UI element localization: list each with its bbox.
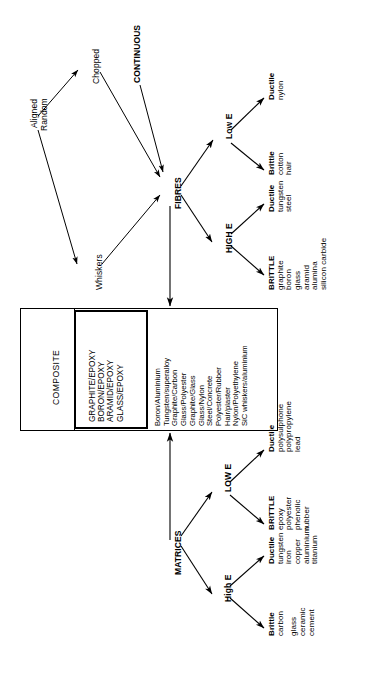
node-fibres-high-e: HIGH E bbox=[225, 223, 234, 253]
leaf-item: lead bbox=[294, 401, 303, 452]
leaf-item: steel bbox=[285, 181, 294, 213]
leaf-item: hair bbox=[285, 151, 294, 175]
edge-aligned-random-to-whiskers bbox=[38, 130, 77, 264]
leaf-fibres-high-e-ductile: Ductile tungsten steel bbox=[268, 181, 294, 213]
edge-continuous-to-fibres bbox=[140, 85, 163, 172]
leaf-item: silicon carbide bbox=[320, 238, 329, 290]
composite-system: GRAPHITE/EPOXY bbox=[88, 350, 97, 422]
edge-matrices-low-e-to-ductile bbox=[230, 450, 264, 482]
node-chopped: Chopped bbox=[92, 49, 101, 84]
leaf-item: rubber bbox=[303, 496, 312, 530]
leaf-matrices-low-e-brittle: BRITTLE epoxy polyester phenolic rubber bbox=[268, 496, 311, 530]
node-aligned: Aligned bbox=[30, 99, 39, 128]
leaf-fibres-low-e-brittle: Brittle cotton hair bbox=[268, 151, 294, 175]
leaf-matrices-low-e-ductile: Ductile polysulphone polypropylene lead bbox=[268, 401, 303, 452]
composite-system: BORON/EPOXY bbox=[97, 350, 106, 422]
composite-system: SiC whiskers/aluminium bbox=[241, 345, 250, 426]
composite-system: GLASS/EPOXY bbox=[116, 350, 125, 422]
edge-whiskers-to-fibres bbox=[102, 195, 160, 264]
composite-box-title: COMPOSITE bbox=[52, 350, 62, 405]
node-matrices-low-e: LOW E bbox=[224, 464, 233, 492]
composite-system: ARAMID/EPOXY bbox=[106, 350, 115, 422]
composite-box-highlighted-systems: GRAPHITE/EPOXY BORON/EPOXY ARAMID/EPOXY … bbox=[88, 350, 125, 422]
node-random: Random bbox=[40, 98, 49, 131]
leaf-matrices-high-e-ductile: Ductile tungsten iron copper aluminium t… bbox=[268, 527, 320, 564]
edge-high-e-to-brittle bbox=[231, 246, 264, 275]
edge-matrices-high-e-to-ductile bbox=[230, 556, 264, 586]
edge-matrices-high-e-to-brittle bbox=[230, 598, 264, 628]
edge-fibres-to-high-e bbox=[181, 195, 212, 242]
edge-chopped-to-fibres bbox=[100, 72, 160, 177]
node-continuous: CONTINUOUS bbox=[133, 25, 142, 83]
edge-low-e-to-ductile bbox=[231, 98, 264, 130]
composite-box-title-cell bbox=[20, 308, 75, 431]
leaf-fibres-high-e-brittle: BRITTLE graphite boron glass aramid alum… bbox=[268, 238, 328, 290]
node-fibres: FIBRES bbox=[174, 177, 183, 209]
edge-fibres-to-low-e bbox=[181, 140, 213, 186]
node-matrices-high-e: High E bbox=[224, 574, 233, 602]
composite-box-other-systems: Boron/Aluminium Tungsten/superalloy Grap… bbox=[154, 345, 250, 426]
node-whiskers: Whiskers bbox=[95, 254, 104, 290]
leaf-item: titanium bbox=[311, 527, 320, 564]
node-fibres-low-e: Low E bbox=[225, 113, 234, 139]
diagram-canvas: Aligned Random Chopped Whiskers CONTINUO… bbox=[0, 0, 367, 697]
edge-matrices-to-high-e bbox=[181, 546, 212, 594]
edge-high-e-to-ductile bbox=[231, 204, 264, 234]
edge-matrices-low-e-to-brittle bbox=[230, 495, 264, 524]
leaf-item: nylon bbox=[277, 73, 286, 100]
edge-low-e-to-brittle bbox=[231, 143, 264, 170]
leaf-fibres-low-e-ductile: Ductile nylon bbox=[268, 73, 285, 100]
leaf-matrices-high-e-brittle: Brittle carbon glass ceramic cement bbox=[268, 607, 316, 636]
edge-matrices-to-low-e bbox=[181, 492, 212, 536]
leaf-item: cement bbox=[308, 607, 317, 636]
node-matrices: MATRICES bbox=[174, 530, 183, 575]
leaf-item: carbon bbox=[277, 607, 286, 636]
